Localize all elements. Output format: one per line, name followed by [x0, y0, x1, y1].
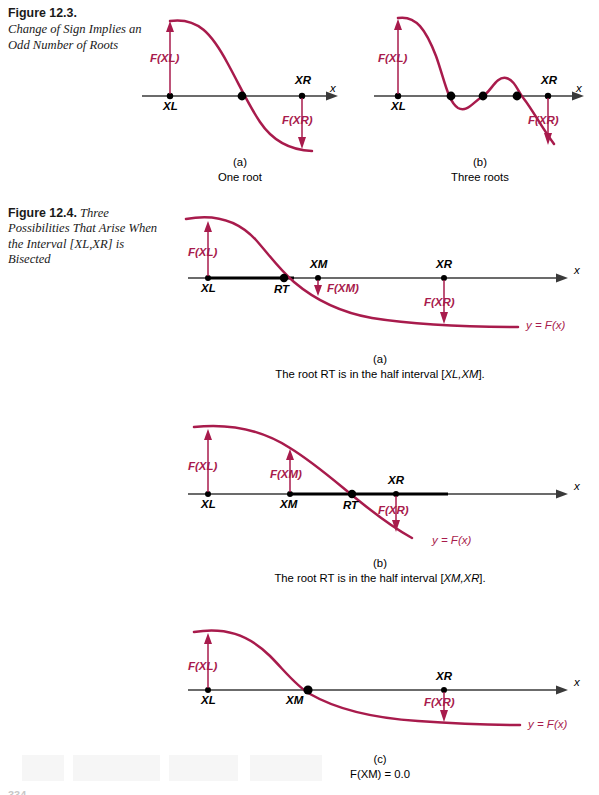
- desc-prefix: The root RT is in the half interval [: [275, 368, 444, 380]
- value-label-fxl: F(XL): [188, 460, 218, 472]
- value-label-fxm: F(XM): [270, 468, 302, 480]
- root-dot-2: [479, 92, 488, 101]
- panel-description-c: F(XM) = 0.0: [170, 767, 590, 782]
- point-label-xl: XL: [200, 694, 216, 706]
- root-dot-rt: [348, 490, 356, 498]
- curve-label: y = F(x): [431, 534, 471, 546]
- function-curve: [170, 20, 312, 151]
- point-label-xr: XR: [387, 474, 405, 486]
- value-arrow-fxm: [314, 280, 322, 296]
- function-curve: [194, 630, 520, 725]
- point-label-xl: XL: [390, 100, 406, 112]
- point-label-xr: XR: [294, 74, 312, 86]
- point-label-xr: XR: [540, 74, 558, 86]
- figure-12-3-panel-b: x XL XR F(XL) F(XR): [372, 4, 592, 164]
- x-axis-label: x: [573, 480, 581, 492]
- point-label-xl: XL: [162, 100, 178, 112]
- value-label-fxr: F(XR): [282, 114, 313, 126]
- desc-interval: XL,XM: [444, 368, 478, 380]
- curve-label: y = F(x): [525, 319, 565, 331]
- figure-12-4-panel-c: x y = F(x) XL XM XR F(XL) F(XR): [186, 608, 586, 748]
- desc-interval: XM,XR: [444, 572, 480, 584]
- point-label-rt: RT: [343, 499, 359, 511]
- panel-tag-b: (b): [390, 155, 570, 170]
- value-label-fxr: F(XR): [424, 696, 455, 708]
- figure-12-4-panel-c-subcaption: (c) F(XM) = 0.0: [170, 752, 590, 782]
- x-axis-label: x: [573, 264, 581, 276]
- desc-suffix: ].: [478, 368, 484, 380]
- x-axis-label: x: [573, 676, 581, 688]
- point-label-rt: RT: [274, 283, 290, 295]
- root-dot-1: [447, 92, 456, 101]
- figure-12-4-panel-a-subcaption: (a) The root RT is in the half interval …: [170, 352, 590, 382]
- x-axis-label: x: [329, 82, 337, 94]
- value-label-fxl: F(XL): [378, 52, 408, 64]
- panel-description-a: The root RT is in the half interval [XL,…: [170, 367, 590, 382]
- panel-description-a: One root: [150, 170, 330, 185]
- point-label-xm: XM: [309, 258, 328, 270]
- root-dot: [238, 92, 247, 101]
- figure-12-3-caption-text: Change of Sign Implies an Odd Number of …: [8, 22, 142, 51]
- root-dot-3: [513, 92, 522, 101]
- value-label-fxr: F(XR): [528, 114, 559, 126]
- value-label-fxr: F(XR): [424, 296, 455, 308]
- point-label-xr: XR: [435, 670, 453, 682]
- panel-tag-c: (c): [170, 752, 590, 767]
- figure-12-3-label: Figure 12.3.: [8, 6, 160, 21]
- point-label-xr: XR: [435, 258, 453, 270]
- root-dot-xm: [303, 685, 312, 694]
- value-label-fxl: F(XL): [188, 660, 218, 672]
- figure-12-3-panel-a-subcaption: (a) One root: [150, 155, 330, 185]
- value-label-fxm: F(XM): [327, 282, 359, 294]
- desc-suffix: ].: [479, 572, 485, 584]
- panel-tag-b: (b): [170, 556, 590, 571]
- point-label-xm: XM: [285, 694, 304, 706]
- root-dot-rt: [280, 274, 288, 282]
- panel-tag-a: (a): [150, 155, 330, 170]
- figure-12-4-panel-a: x y = F(x) XL RT XM XR F(XL) F(XM): [186, 206, 586, 346]
- desc-prefix: The root RT is in the half interval [: [274, 572, 443, 584]
- figure-12-4-label: Figure 12.4.: [8, 206, 77, 220]
- value-label-fxl: F(XL): [188, 246, 218, 258]
- panel-tag-a: (a): [170, 352, 590, 367]
- figure-12-3-caption: Figure 12.3. Change of Sign Implies an O…: [8, 6, 160, 53]
- panel-description-b: The root RT is in the half interval [XM,…: [170, 571, 590, 586]
- figure-12-4-panel-b: x y = F(x) XL XM RT XR F(XL) F(XM): [186, 406, 586, 556]
- point-label-xl: XL: [200, 282, 216, 294]
- figure-12-3-panel-b-subcaption: (b) Three roots: [390, 155, 570, 185]
- value-label-fxr: F(XR): [378, 504, 409, 516]
- figure-12-3-panel-a: x XL XR F(XL) F(XR): [140, 4, 340, 164]
- figure-12-4-panel-b-subcaption: (b) The root RT is in the half interval …: [170, 556, 590, 586]
- function-curve: [194, 426, 412, 538]
- x-axis: [188, 686, 568, 695]
- point-label-xm: XM: [279, 498, 298, 510]
- curve-label: y = F(x): [527, 718, 567, 730]
- page-number: 334: [8, 789, 26, 795]
- value-label-fxl: F(XL): [150, 52, 180, 64]
- x-axis-label: x: [575, 82, 583, 94]
- point-label-xl: XL: [200, 498, 216, 510]
- panel-description-b: Three roots: [390, 170, 570, 185]
- function-curve: [186, 217, 518, 327]
- figure-12-4-caption: Figure 12.4. Three Possibilities That Ar…: [8, 206, 160, 268]
